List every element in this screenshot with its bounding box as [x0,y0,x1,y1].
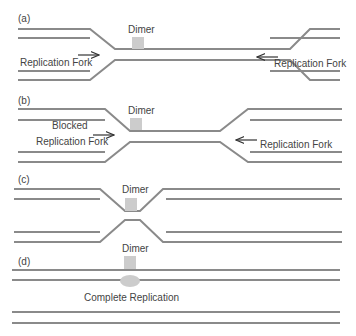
complete-replication-label: Complete Replication [84,292,179,303]
dimer-label: Dimer [128,105,155,116]
panel-b: (b) Dimer Blocked Replication Fork Repli… [18,95,342,162]
panel-b-tag: (b) [18,95,30,106]
blocked-label: Blocked [52,120,88,131]
fork-left-label: Replication Fork [36,136,109,147]
panel-c: (c) Dimer [14,174,342,242]
repair-patch [120,275,140,287]
dimer-block [125,198,137,211]
panel-c-tag: (c) [18,174,30,185]
panel-a: (a) Dimer Replication Fork Replication F… [18,13,347,80]
dna-replication-diagram: (a) Dimer Replication Fork Replication F… [0,0,356,336]
dimer-block [124,256,136,270]
dimer-block [130,118,142,130]
fork-right-label: Replication Fork [260,139,333,150]
dimer-label: Dimer [122,243,149,254]
panel-d: Dimer (d) Complete Replication [12,243,340,323]
dimer-block [132,37,144,49]
fork-left-label: Replication Fork [20,57,93,68]
fork-right-label: Replication Fork [274,58,347,69]
dimer-label: Dimer [128,24,155,35]
dimer-label: Dimer [122,184,149,195]
panel-a-tag: (a) [18,13,30,24]
panel-d-tag: (d) [18,256,30,267]
